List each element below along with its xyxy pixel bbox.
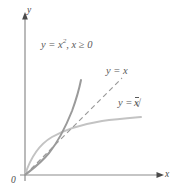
- sqrt-label-lhs: y =: [118, 97, 135, 108]
- x-axis-label: x: [165, 170, 169, 180]
- sqrt-radical-icon: √: [135, 98, 141, 109]
- sqrt-curve: [25, 117, 141, 175]
- origin-label: 0: [11, 176, 16, 186]
- parabola-label-condition: , x ≥ 0: [66, 39, 92, 50]
- identity-label: y = x: [106, 66, 128, 77]
- y-axis-label: y: [27, 6, 31, 16]
- x-axis-arrowhead-icon: [157, 172, 165, 178]
- sqrt-label: y = x√: [118, 97, 139, 109]
- identity-line: [25, 78, 122, 175]
- function-graph-figure: y = x2, x ≥ 0 y = x y = x√ y x 0: [0, 0, 177, 195]
- parabola-label-lhs: y = x: [41, 39, 63, 50]
- graph-canvas: [0, 0, 177, 195]
- parabola-label: y = x2, x ≥ 0: [41, 38, 92, 50]
